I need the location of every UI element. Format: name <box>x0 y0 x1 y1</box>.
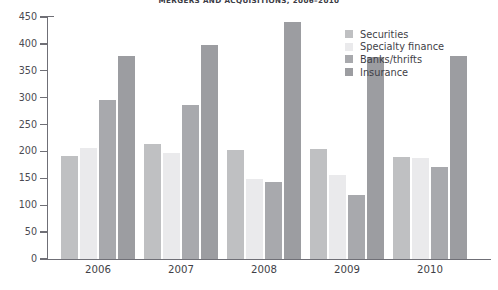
y-axis-tick-label: 350 <box>3 65 37 76</box>
bar <box>393 157 410 259</box>
y-axis-tick-label: 250 <box>3 119 37 130</box>
y-axis-tick <box>40 205 47 206</box>
bar <box>182 105 199 259</box>
x-axis-tick-label: 2008 <box>219 264 309 275</box>
y-axis-tick-label: 50 <box>3 226 37 237</box>
legend-swatch-icon <box>345 55 353 63</box>
bar <box>118 56 135 259</box>
bar <box>348 195 365 259</box>
y-axis-tick-label: 100 <box>3 199 37 210</box>
bar-group <box>61 17 135 259</box>
y-axis-tick-label: 300 <box>3 92 37 103</box>
y-axis-tick <box>40 16 47 17</box>
bar <box>99 100 116 259</box>
y-axis-tick <box>40 231 47 232</box>
y-axis-tick <box>40 43 47 44</box>
bar <box>201 45 218 259</box>
x-axis-tick-label: 2010 <box>385 264 475 275</box>
bar <box>80 148 97 259</box>
legend-swatch-icon <box>345 43 353 51</box>
chart-container: MERGERS AND ACQUISITIONS, 2006–2010 0501… <box>0 0 498 290</box>
bar-group <box>144 17 218 259</box>
legend-item-label: Banks/thrifts <box>360 54 422 65</box>
y-axis-tick <box>40 70 47 71</box>
y-axis-tick-label: 450 <box>3 11 37 22</box>
bar <box>310 149 327 259</box>
y-axis-tick-label: 400 <box>3 38 37 49</box>
x-axis-tick-label: 2007 <box>136 264 226 275</box>
bar <box>265 182 282 259</box>
y-axis-tick <box>40 151 47 152</box>
legend-item-label: Insurance <box>360 67 408 78</box>
legend-item[interactable]: Banks/thrifts <box>345 53 444 66</box>
x-axis-tick-label: 2006 <box>53 264 143 275</box>
bar <box>227 150 244 259</box>
bar <box>431 167 448 259</box>
legend-swatch-icon <box>345 68 353 76</box>
y-axis-tick-label: 0 <box>3 253 37 264</box>
legend-item[interactable]: Securities <box>345 28 444 41</box>
legend-item-label: Securities <box>360 29 408 40</box>
y-axis-tick <box>40 124 47 125</box>
bar <box>246 179 263 259</box>
bar <box>367 57 384 259</box>
bar <box>412 158 429 259</box>
x-axis-tick-label: 2009 <box>302 264 392 275</box>
legend-item-label: Specialty finance <box>360 41 444 52</box>
legend-swatch-icon <box>345 30 353 38</box>
chart-legend: SecuritiesSpecialty financeBanks/thrifts… <box>345 28 444 78</box>
chart-title: MERGERS AND ACQUISITIONS, 2006–2010 <box>0 0 498 5</box>
legend-item[interactable]: Specialty finance <box>345 41 444 54</box>
bar <box>163 153 180 259</box>
bar <box>144 144 161 259</box>
y-axis-tick-label: 200 <box>3 145 37 156</box>
legend-item[interactable]: Insurance <box>345 66 444 79</box>
y-axis-tick <box>40 178 47 179</box>
bar <box>61 156 78 259</box>
y-axis-tick-label: 150 <box>3 172 37 183</box>
bar <box>284 22 301 259</box>
bar <box>450 56 467 259</box>
y-axis-tick <box>40 97 47 98</box>
bar <box>329 175 346 259</box>
bar-group <box>227 17 301 259</box>
